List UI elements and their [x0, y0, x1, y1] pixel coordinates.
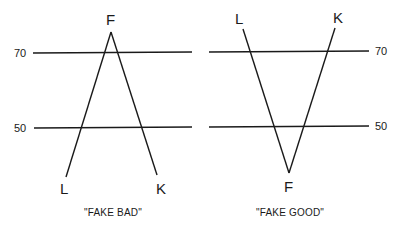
tick-label-70-right: 70 — [375, 45, 387, 57]
tick-label-50-left: 50 — [14, 122, 26, 134]
caption-fake-bad: "FAKE BAD" — [84, 207, 142, 218]
profile-line-L-F — [66, 32, 111, 177]
profile-line-L-F-right — [243, 29, 289, 173]
profile-line-F-K — [111, 32, 157, 175]
scale-label-K-left: K — [156, 180, 166, 197]
fake-bad-fake-good-diagram: 70 50 F L K "FAKE BAD" 70 50 L K F "FAKE… — [0, 0, 399, 228]
reference-line-50-left — [34, 127, 192, 128]
fake-good-panel: 70 50 L K F "FAKE GOOD" — [209, 9, 387, 218]
tick-label-70-left: 70 — [14, 47, 26, 59]
caption-fake-good: "FAKE GOOD" — [256, 207, 324, 218]
reference-line-50-right — [209, 126, 369, 127]
scale-label-L-right: L — [235, 10, 243, 27]
scale-label-L-left: L — [60, 180, 68, 197]
scale-label-K-right: K — [333, 9, 343, 26]
profile-line-F-K-right — [289, 28, 335, 173]
scale-label-F-right: F — [284, 178, 293, 195]
fake-bad-panel: 70 50 F L K "FAKE BAD" — [14, 11, 192, 218]
reference-line-70-right — [209, 51, 369, 52]
tick-label-50-right: 50 — [375, 120, 387, 132]
scale-label-F-left: F — [106, 11, 115, 28]
reference-line-70-left — [33, 52, 192, 53]
